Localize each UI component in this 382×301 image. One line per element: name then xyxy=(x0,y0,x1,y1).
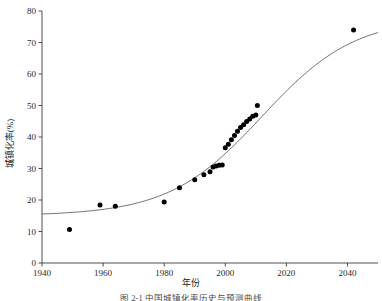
data-point xyxy=(255,103,260,108)
data-point xyxy=(208,169,213,174)
x-axis-tick-label: 2040 xyxy=(338,269,356,278)
data-point xyxy=(232,133,237,138)
data-point xyxy=(98,203,103,208)
data-point xyxy=(226,142,231,147)
x-axis-title: 年份 xyxy=(0,276,382,289)
data-point xyxy=(201,172,206,177)
urbanization-rate-chart xyxy=(0,0,382,301)
x-axis-tick-label: 2000 xyxy=(216,269,234,278)
y-axis-tick-label: 0 xyxy=(0,259,36,268)
y-axis-tick-label: 10 xyxy=(0,227,36,236)
data-point xyxy=(220,163,225,168)
x-axis-tick-label: 1980 xyxy=(155,269,173,278)
y-axis-tick-label: 70 xyxy=(0,38,36,47)
x-axis-tick-label: 1960 xyxy=(94,269,112,278)
x-axis-tick-label: 2020 xyxy=(277,269,295,278)
data-point xyxy=(253,112,258,117)
data-point xyxy=(67,227,72,232)
y-axis-tick-label: 40 xyxy=(0,133,36,142)
y-axis-tick-label: 30 xyxy=(0,164,36,173)
figure-caption: 图 2-1 中国城镇化率历史与预测曲线 xyxy=(0,291,382,301)
figure-container: 城镇化率(%) 年份 图 2-1 中国城镇化率历史与预测曲线 010203040… xyxy=(0,0,382,301)
data-point xyxy=(229,137,234,142)
y-axis-tick-label: 80 xyxy=(0,7,36,16)
data-point xyxy=(351,27,356,32)
x-axis-tick-label: 1940 xyxy=(33,269,51,278)
y-axis-tick-label: 50 xyxy=(0,101,36,110)
data-point xyxy=(192,177,197,182)
data-point xyxy=(162,199,167,204)
y-axis-tick-label: 20 xyxy=(0,196,36,205)
data-point xyxy=(177,185,182,190)
data-point xyxy=(113,204,118,209)
y-axis-tick-label: 60 xyxy=(0,70,36,79)
